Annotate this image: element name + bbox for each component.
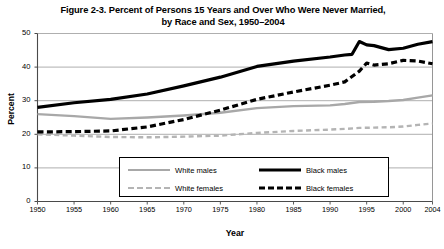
legend-label-black-males: Black males bbox=[306, 166, 347, 175]
plot-area: Percent Year 01020304050 195019551960196… bbox=[0, 0, 444, 249]
x-tick-label: 1975 bbox=[200, 206, 240, 214]
x-tick-label: 1965 bbox=[127, 206, 167, 214]
legend-label-black-females: Black females bbox=[306, 184, 353, 193]
legend-item-white-males[interactable]: White males bbox=[128, 161, 217, 179]
y-tick-label: 0 bbox=[5, 197, 31, 205]
y-tick-label: 20 bbox=[5, 130, 31, 138]
x-tick-label: 1990 bbox=[310, 206, 350, 214]
chart-legend: White males Black males White females Bl… bbox=[119, 157, 389, 197]
x-tick-label: 1970 bbox=[164, 206, 204, 214]
legend-item-black-males[interactable]: Black males bbox=[259, 161, 347, 179]
legend-label-white-females: White females bbox=[175, 184, 223, 193]
x-tick-label: 1995 bbox=[347, 206, 387, 214]
x-tick-label: 1985 bbox=[274, 206, 314, 214]
data-series-group bbox=[38, 42, 433, 138]
legend-item-black-females[interactable]: Black females bbox=[259, 179, 353, 197]
legend-item-white-females[interactable]: White females bbox=[128, 179, 223, 197]
x-tick-label: 1955 bbox=[54, 206, 94, 214]
x-tick-label: 1980 bbox=[237, 206, 277, 214]
figure-container: Figure 2-3. Percent of Persons 15 Years … bbox=[0, 0, 444, 249]
y-tick-label: 10 bbox=[5, 163, 31, 171]
series-line-black-females bbox=[38, 60, 433, 132]
legend-label-white-males: White males bbox=[175, 166, 217, 175]
series-line-black-males bbox=[38, 42, 433, 108]
y-tick-label: 30 bbox=[5, 96, 31, 104]
dashed-gray-line-icon bbox=[128, 183, 170, 193]
x-axis-title: Year bbox=[37, 228, 433, 238]
y-tick-label: 40 bbox=[5, 63, 31, 71]
solid-black-line-icon bbox=[259, 165, 301, 175]
x-tick-label: 1960 bbox=[91, 206, 131, 214]
y-tick-label: 50 bbox=[5, 29, 31, 37]
x-tick-label: 1950 bbox=[18, 206, 58, 214]
x-tick-label: 2004 bbox=[413, 206, 444, 214]
solid-gray-line-icon bbox=[128, 165, 170, 175]
dashed-black-line-icon bbox=[259, 183, 301, 193]
